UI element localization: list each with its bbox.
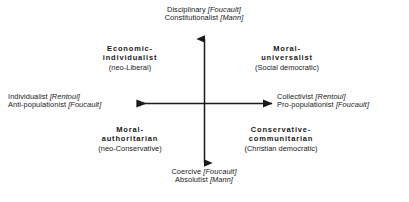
left-pole-cite-2: [Foucault] bbox=[68, 100, 101, 109]
quadrant-label-bottom-right: Conservative- communitarian (Christian d… bbox=[244, 125, 317, 154]
quadrant-bl-subtitle: (neo-Conservative) bbox=[98, 144, 162, 154]
top-pole-cite-2: [Mann] bbox=[220, 13, 243, 22]
axis-pole-label-bottom: Coercive [Foucault] Absolutist [Mann] bbox=[171, 168, 236, 184]
quadrant-tl-head-line-2: individualist bbox=[103, 53, 157, 62]
quadrant-tr-head-line-1: Moral- bbox=[255, 44, 319, 53]
bottom-pole-cite-2: [Mann] bbox=[210, 175, 233, 184]
quadrant-label-top-right: Moral- universalist (Social democratic) bbox=[255, 44, 319, 73]
bottom-pole-line-2: Absolutist [Mann] bbox=[171, 176, 236, 184]
quadrant-tl-subtitle: (neo-Liberal) bbox=[103, 63, 157, 73]
quadrant-br-subtitle: (Christian democratic) bbox=[244, 144, 317, 154]
quadrant-diagram: Disciplinary [Foucault] Constitutionalis… bbox=[0, 0, 409, 202]
bottom-pole-term-2: Absolutist bbox=[175, 175, 208, 184]
quadrant-tr-head-line-2: universalist bbox=[255, 53, 319, 62]
right-pole-cite-2: [Foucault] bbox=[336, 100, 369, 109]
axis-pole-label-right: Collectivist [Rentoul] Pro-populationist… bbox=[277, 93, 369, 109]
quadrant-label-top-left: Economic- individualist (neo-Liberal) bbox=[103, 44, 157, 73]
quadrant-tr-subtitle: (Social democratic) bbox=[255, 63, 319, 73]
quadrant-br-head-line-2: communitarian bbox=[244, 134, 317, 143]
axis-pole-label-left: Individualist [Rentoul] Anti-populationi… bbox=[8, 93, 101, 109]
top-pole-term-2: Constitutionalist bbox=[165, 13, 218, 22]
left-pole-term-2: Anti-populationist bbox=[8, 100, 66, 109]
right-pole-term-2: Pro-populationist bbox=[277, 100, 334, 109]
top-pole-line-2: Constitutionalist [Mann] bbox=[165, 14, 244, 22]
axis-pole-label-top: Disciplinary [Foucault] Constitutionalis… bbox=[165, 6, 244, 22]
quadrant-br-head-line-1: Conservative- bbox=[244, 125, 317, 134]
quadrant-tl-head-line-1: Economic- bbox=[103, 44, 157, 53]
right-pole-line-2: Pro-populationist [Foucault] bbox=[277, 101, 369, 109]
quadrant-label-bottom-left: Moral- authoritarian (neo-Conservative) bbox=[98, 125, 162, 154]
left-pole-line-2: Anti-populationist [Foucault] bbox=[8, 101, 101, 109]
quadrant-bl-head-line-2: authoritarian bbox=[98, 134, 162, 143]
quadrant-bl-head-line-1: Moral- bbox=[98, 125, 162, 134]
